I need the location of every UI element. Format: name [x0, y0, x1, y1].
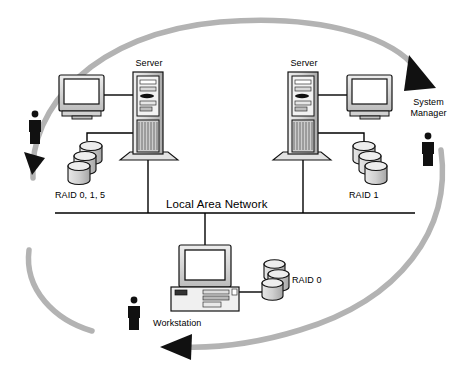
cable-disks-left: [87, 133, 133, 141]
disk-stack-workstation: [262, 260, 289, 301]
label-server-right: Server: [280, 58, 328, 68]
arc-left-lower: [28, 250, 92, 331]
label-raid-workstation: RAID 0: [292, 275, 322, 285]
person-bottom: [128, 297, 140, 330]
disk-stack-left: [68, 142, 102, 185]
label-system-manager-line1: System: [400, 97, 457, 108]
label-system-manager: System Manager: [400, 97, 457, 119]
monitor-left: [59, 75, 104, 119]
arrowhead-bottom-left: [160, 334, 192, 360]
server-left: [120, 72, 178, 160]
monitor-right: [347, 75, 392, 119]
arrowhead-left-up: [24, 152, 45, 175]
network-diagram: Server Server RAID 0, 1, 5 RAID 1 Local …: [0, 0, 469, 370]
person-system-manager: [422, 133, 434, 166]
label-system-manager-line2: Manager: [400, 108, 457, 119]
server-right: [273, 72, 331, 160]
disk-stack-right: [353, 142, 387, 185]
diagram-canvas: [0, 0, 469, 370]
person-left: [29, 111, 41, 144]
label-workstation: Workstation: [153, 318, 201, 328]
cable-disks-right: [318, 133, 364, 141]
label-local-area-network: Local Area Network: [166, 198, 268, 210]
label-raid-left: RAID 0, 1, 5: [55, 190, 105, 200]
label-raid-right: RAID 1: [349, 190, 379, 200]
workstation: [171, 245, 239, 311]
label-server-left: Server: [125, 58, 173, 68]
arrowhead-top-right: [404, 55, 436, 91]
